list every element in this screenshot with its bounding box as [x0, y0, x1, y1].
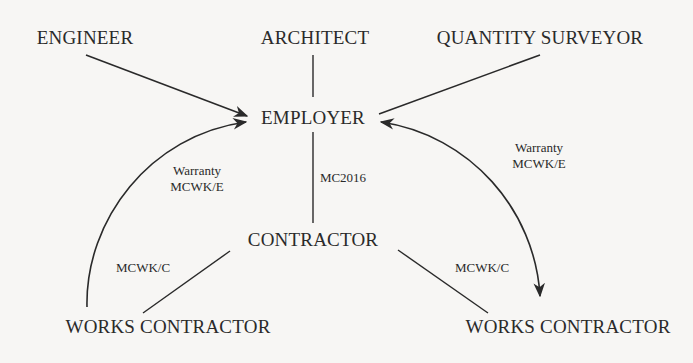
- engineer-to-employer-arrow: [86, 55, 247, 116]
- qs-employer-line: [379, 55, 540, 114]
- node-quantity-surveyor: QUANTITY SURVEYOR: [437, 27, 643, 49]
- label-mcwk-c-left: MCWK/C: [116, 260, 170, 276]
- label-warranty-right: Warranty MCWK/E: [512, 140, 565, 172]
- node-works-contractor-left: WORKS CONTRACTOR: [65, 316, 270, 338]
- label-mcwk-c-right: MCWK/C: [455, 260, 509, 276]
- warranty-left-arrow: [87, 122, 246, 307]
- label-mc2016: MC2016: [320, 170, 366, 186]
- label-warranty-left: Warranty MCWK/E: [170, 163, 223, 195]
- node-engineer: ENGINEER: [37, 27, 134, 49]
- node-architect: ARCHITECT: [261, 27, 369, 49]
- label-warranty-left-line2: MCWK/E: [170, 179, 223, 195]
- label-warranty-right-line1: Warranty: [512, 140, 565, 156]
- node-contractor: CONTRACTOR: [248, 229, 378, 251]
- node-works-contractor-right: WORKS CONTRACTOR: [465, 316, 670, 338]
- label-warranty-right-line2: MCWK/E: [512, 156, 565, 172]
- node-employer: EMPLOYER: [261, 107, 365, 129]
- label-warranty-left-line1: Warranty: [170, 163, 223, 179]
